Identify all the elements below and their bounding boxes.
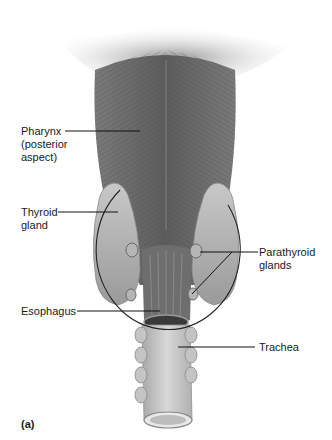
label-thyroid: Thyroid gland <box>21 206 58 232</box>
pharynx-line2: (posterior <box>21 138 67 151</box>
label-trachea: Trachea <box>259 341 299 354</box>
panel-label: (a) <box>21 418 34 430</box>
pharynx-line1: Pharynx <box>21 125 67 138</box>
trachea <box>135 325 197 428</box>
label-pharynx: Pharynx (posterior aspect) <box>21 125 67 164</box>
parathyroid-line1: Parathyroid <box>259 246 315 259</box>
thyroid-line2: gland <box>21 219 58 232</box>
label-parathyroid: Parathyroid glands <box>259 246 315 272</box>
parathyroid-line2: glands <box>259 259 315 272</box>
esophagus <box>142 245 192 329</box>
thyroid-line1: Thyroid <box>21 206 58 219</box>
pharynx-line3: aspect) <box>21 151 67 164</box>
label-esophagus: Esophagus <box>21 305 76 318</box>
